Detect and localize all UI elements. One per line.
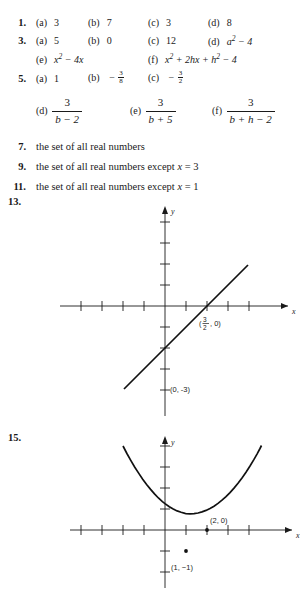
fraction-denominator: b + 5 [146, 111, 176, 127]
x-axis-arrow [285, 527, 292, 533]
part-label: (b) [88, 35, 100, 46]
y-axis-arrow [162, 206, 168, 214]
answer-row-7: 7. the set of all real numbers [0, 138, 302, 155]
answer-text-prefix: the set of all real numbers except [36, 181, 175, 192]
graph-number-15: 15. [8, 432, 21, 443]
fraction-3-over-b-plus-5: 3 b + 5 [146, 96, 176, 127]
part-value: x2 − 4x [54, 54, 83, 65]
answer-part-3a: (a)5 [36, 35, 59, 46]
answer-part-3e: (e)x2 − 4x [36, 52, 84, 65]
part-label: (d) [208, 36, 220, 47]
part-value: 3 [166, 17, 171, 28]
y-intercept-label: (0, -3) [170, 385, 191, 394]
question-number: 1. [6, 17, 26, 28]
y-axis-label: y [170, 207, 175, 216]
answer-row-11: 11. the set of all real numbers except x… [0, 178, 302, 195]
answer-row-9: 9. the set of all real numbers except x … [0, 158, 302, 175]
part-value: 0 [107, 35, 112, 46]
part-value: 1 [54, 73, 59, 84]
part-value: x2 + 2hx + h2 − 4 [165, 54, 237, 65]
excluded-value: 1 [193, 181, 198, 192]
answer-part-5e: (e) 3 b + 5 [130, 96, 178, 127]
question-number: 11. [6, 181, 26, 192]
answer-part-3f: (f)x2 + 2hx + h2 − 4 [148, 52, 237, 65]
part-value: 3 [54, 17, 59, 28]
part-label: (a) [36, 73, 47, 84]
paren-open: ( [199, 319, 202, 328]
line-curve [124, 265, 248, 389]
fraction-denominator: 2 [178, 77, 184, 85]
part-label: (b) [88, 72, 100, 83]
fraction-numerator: 3 [118, 70, 124, 77]
variable-x: x [177, 181, 182, 192]
vertex-point [184, 549, 188, 553]
answer-part-3d: (d)a2 − 4 [208, 34, 252, 47]
x-intercept-label: ( 3 2 , 0) [199, 316, 221, 331]
excluded-value: 3 [193, 161, 198, 172]
fraction-numerator: 3 [178, 70, 184, 77]
x-intercept-rest: , 0) [210, 319, 221, 328]
part-value: 8 [227, 17, 232, 28]
part-label: (c) [148, 17, 159, 28]
fraction-3-over-b-minus-2: 3 b − 2 [52, 96, 82, 127]
parabola-graph-svg: x y (2, 0) (1, −1) [60, 428, 302, 592]
part-value: 5 [54, 35, 59, 46]
part-value: 12 [166, 35, 176, 46]
part-label: (a) [36, 35, 47, 46]
answer-part-5b: (b) − 3 8 [88, 71, 125, 86]
answer-text: the set of all real numbers except x = 1 [36, 181, 199, 192]
root-point [205, 528, 209, 532]
answer-row-5: 5. (a)1 (b) − 3 8 (c) − 3 2 [0, 70, 302, 87]
x-intercept-numerator: 3 [203, 316, 207, 323]
answer-part-3b: (b)0 [88, 35, 112, 46]
x-axis-arrow [281, 303, 288, 309]
answer-row-3-cont: (e)x2 − 4x (f)x2 + 2hx + h2 − 4 [0, 50, 302, 67]
answer-part-1c: (c)3 [148, 17, 171, 28]
part-label: (f) [148, 54, 158, 65]
question-number: 5. [6, 73, 26, 84]
equals-sign: = [185, 161, 191, 172]
part-label: (e) [130, 104, 141, 115]
part-label: (c) [148, 72, 159, 83]
root-label: (2, 0) [210, 516, 228, 525]
part-label: (b) [88, 17, 100, 28]
line-graph-svg: x y ( 3 2 , 0) (0, -3) [60, 196, 302, 426]
x-intercept-denominator: 2 [203, 324, 207, 331]
question-number: 7. [6, 141, 26, 152]
question-number: 9. [6, 161, 26, 172]
answer-part-5d: (d) 3 b − 2 [36, 96, 84, 127]
part-label: (a) [36, 17, 47, 28]
part-label: (d) [36, 104, 48, 115]
graph-number-13: 13. [8, 196, 21, 207]
fraction-3-over-b-plus-h-minus-2: 3 b + h − 2 [227, 96, 275, 127]
y-axis-label: y [170, 438, 175, 447]
part-label: (f) [212, 104, 222, 115]
vertex-label: (1, −1) [171, 563, 193, 572]
fraction-three-eighths: 3 8 [118, 70, 124, 85]
fraction-numerator: 3 [245, 96, 257, 111]
part-label: (c) [148, 35, 159, 46]
answer-part-1a: (a)3 [36, 17, 59, 28]
answer-part-1d: (d)8 [208, 17, 232, 28]
minus-sign: − [109, 72, 115, 83]
answer-text: the set of all real numbers except x = 3 [36, 161, 199, 172]
fraction-denominator: 8 [118, 77, 124, 85]
answer-text: the set of all real numbers [36, 141, 145, 152]
graph-13-line: x y ( 3 2 , 0) (0, -3) [60, 196, 302, 426]
answer-part-5a: (a)1 [36, 73, 59, 84]
parabola-curve [123, 446, 262, 514]
answer-row-5-cont: (d) 3 b − 2 (e) 3 b + 5 (f) 3 b + h − 2 [0, 96, 302, 126]
part-value: 7 [107, 17, 112, 28]
answer-part-5c: (c) − 3 2 [148, 71, 184, 86]
fraction-numerator: 3 [61, 96, 73, 111]
fraction-numerator: 3 [155, 96, 167, 111]
x-axis-label: x [291, 307, 296, 316]
part-value: a2 − 4 [227, 36, 253, 47]
question-number: 3. [6, 35, 26, 46]
answer-row-1: 1. (a)3 (b)7 (c)3 (d)8 [0, 14, 302, 31]
y-axis-arrow [162, 436, 168, 444]
part-label: (d) [208, 17, 220, 28]
answer-row-3: 3. (a)5 (b)0 (c)12 (d)a2 − 4 [0, 32, 302, 49]
part-value: − 3 8 [109, 72, 125, 83]
answer-key-page: 1. (a)3 (b)7 (c)3 (d)8 3. (a)5 (b)0 (c)1… [0, 0, 302, 592]
